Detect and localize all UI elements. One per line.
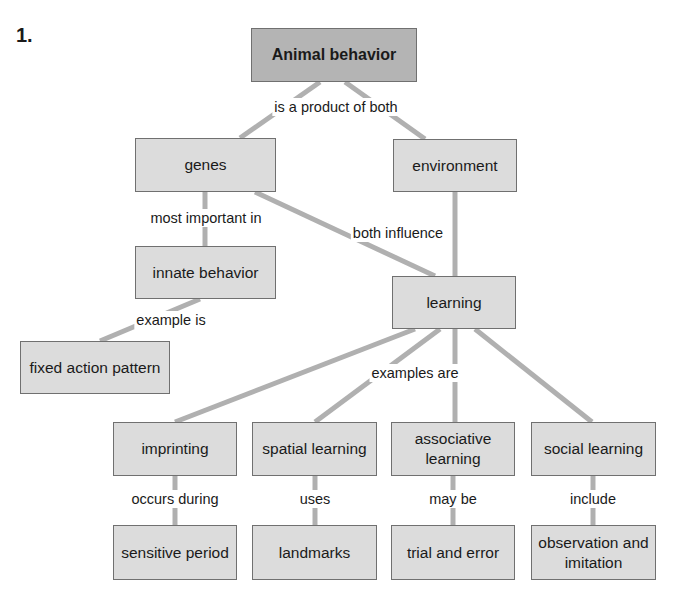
- link-most-important-in: most important in: [148, 209, 263, 227]
- node-landmarks: landmarks: [252, 525, 377, 580]
- node-spatial-learning: spatial learning: [252, 422, 377, 476]
- node-imprinting: imprinting: [113, 422, 237, 476]
- link-uses: uses: [298, 490, 333, 508]
- link-both-influence: both influence: [351, 224, 445, 242]
- node-fixed-action-pattern: fixed action pattern: [20, 341, 170, 394]
- link-occurs-during: occurs during: [129, 490, 220, 508]
- node-social-learning: social learning: [531, 422, 656, 476]
- connector-lines: [0, 0, 673, 601]
- node-trial-and-error: trial and error: [391, 525, 515, 580]
- link-example-is: example is: [134, 311, 207, 329]
- link-include: include: [568, 490, 618, 508]
- node-environment: environment: [393, 139, 517, 192]
- node-genes: genes: [135, 138, 276, 192]
- link-product-of-both: is a product of both: [272, 98, 399, 116]
- node-learning: learning: [392, 276, 516, 329]
- node-sensitive-period: sensitive period: [113, 525, 237, 580]
- node-associative-learning: associative learning: [391, 422, 515, 476]
- link-examples-are: examples are: [369, 364, 460, 382]
- question-number: 1.: [16, 24, 33, 47]
- node-animal-behavior: Animal behavior: [251, 28, 417, 82]
- link-may-be: may be: [427, 490, 479, 508]
- node-innate-behavior: innate behavior: [135, 246, 276, 299]
- node-observation-imitation: observation and imitation: [531, 525, 656, 580]
